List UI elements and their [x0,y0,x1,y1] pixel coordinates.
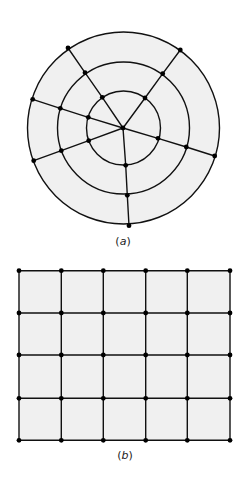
grid-node [59,311,64,316]
grid-node [143,396,148,401]
grid-node [101,353,106,358]
mesh-node [178,48,183,53]
grid-node [101,268,106,273]
caption-a: (a) [115,235,130,248]
mesh-node [127,223,132,228]
grid-node [228,311,233,316]
grid-node [101,396,106,401]
mesh-node [31,158,36,163]
mesh-node [125,193,130,198]
mesh-node [123,163,128,168]
mesh-node [86,115,91,120]
center-node [121,126,126,131]
grid-node [143,311,148,316]
grid-node [228,396,233,401]
grid-node [228,268,233,273]
mesh-node [58,106,63,111]
mesh-node [160,71,165,76]
grid-node [228,353,233,358]
mesh-node [100,95,105,100]
mesh-node [66,46,71,51]
circular-mesh-diagram [28,32,220,228]
grid-node [59,353,64,358]
grid-node [185,268,190,273]
grid-node [59,268,64,273]
grid-node [17,311,22,316]
grid-node [143,353,148,358]
mesh-node [184,145,189,150]
mesh-node [212,154,217,159]
grid-node [228,438,233,443]
grid-mesh-diagram [17,268,233,442]
mesh-diagram-figure: (a) (b) [0,0,250,477]
grid-node [143,268,148,273]
grid-node [185,396,190,401]
grid-node [185,311,190,316]
mesh-node [143,96,148,101]
grid-node [185,353,190,358]
mesh-node [59,148,64,153]
mesh-node [83,70,88,75]
grid-node [101,311,106,316]
grid-node [59,396,64,401]
grid-node [17,268,22,273]
mesh-node [156,136,161,141]
mesh-node [86,138,91,143]
mesh-node [30,97,35,102]
caption-b: (b) [117,449,133,462]
grid-node [17,353,22,358]
grid-node [185,438,190,443]
grid-node [17,396,22,401]
grid-node [101,438,106,443]
grid-node [59,438,64,443]
grid-node [17,438,22,443]
grid-node [143,438,148,443]
